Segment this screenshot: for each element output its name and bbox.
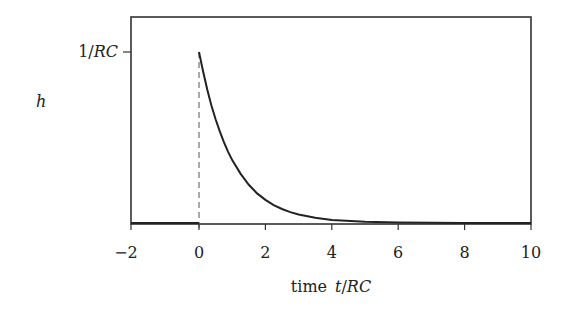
- svg-text:−2: −2: [114, 243, 138, 262]
- svg-text:4: 4: [327, 243, 337, 262]
- svg-text:10: 10: [521, 243, 541, 262]
- svg-text:0: 0: [194, 243, 204, 262]
- x-tick-labels: −2 0 2 4 6 8 10: [114, 243, 541, 262]
- svg-text:8: 8: [460, 243, 470, 262]
- impulse-response-chart: 1/RC h −2 0 2 4 6 8 10 timet/RC: [0, 0, 565, 312]
- x-ticks: [131, 224, 531, 230]
- plot-frame: [131, 17, 531, 224]
- decay-curve: [199, 52, 531, 223]
- y-tick-label: 1/RC: [78, 42, 118, 61]
- svg-text:6: 6: [393, 243, 403, 262]
- svg-text:2: 2: [260, 243, 270, 262]
- x-axis-label: timet/RC: [291, 277, 371, 296]
- y-axis-label: h: [36, 92, 46, 111]
